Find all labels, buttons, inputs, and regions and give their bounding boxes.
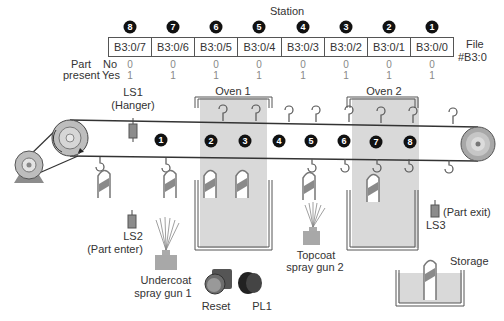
conveyor-station-1: 1 (155, 134, 168, 147)
ls2-sensor (128, 210, 136, 228)
conveyor-station-2: 2 (205, 135, 218, 148)
conveyor-station-3: 3 (239, 135, 252, 148)
ls2-sub-label: (Part enter) (87, 243, 143, 255)
ls1-sub-label: (Hanger) (111, 99, 154, 111)
topcoat-spray-gun-2 (303, 202, 325, 245)
oven-1-label: Oven 1 (215, 85, 250, 97)
oven-2 (347, 97, 419, 250)
conveyor-graphics (0, 0, 504, 321)
spray-gun-1-sub-label: spray gun 1 (134, 287, 191, 299)
spray-gun-2-sub-label: spray gun 2 (286, 261, 343, 273)
ls1-label: LS1 (123, 86, 143, 98)
storage-bin (396, 260, 464, 306)
conveyor-station-7: 7 (370, 136, 383, 149)
storage-label: Storage (450, 255, 489, 267)
ls3-sensor (431, 200, 439, 217)
undercoat-spray-gun-1 (155, 217, 179, 270)
ls2-label: LS2 (123, 230, 143, 242)
oven-2-label: Oven 2 (366, 85, 401, 97)
spray-gun-2-label: Topcoat (297, 249, 336, 261)
conveyor-station-6: 6 (338, 135, 351, 148)
pl1-pilot-light (238, 272, 262, 294)
left-pulley (52, 120, 88, 156)
right-pulley (461, 127, 495, 161)
reset-pushbutton (205, 269, 232, 294)
spray-gun-1-label: Undercoat (141, 274, 192, 286)
ls3-label: LS3 (426, 219, 446, 231)
conveyor-station-4: 4 (273, 135, 286, 148)
hanging-parts (98, 170, 379, 202)
conveyor-station-8: 8 (404, 136, 417, 149)
reset-label: Reset (202, 300, 231, 312)
ls3-sub-label: (Part exit) (443, 206, 491, 218)
pl1-label: PL1 (252, 300, 272, 312)
conveyor-station-5: 5 (305, 135, 318, 148)
